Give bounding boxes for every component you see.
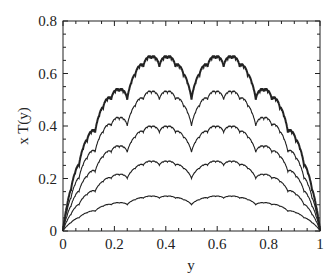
curves: [63, 56, 320, 231]
curve-x=0.2: [63, 196, 320, 231]
x-axis-label: y: [187, 257, 195, 273]
curve-x=0.8: [63, 91, 320, 231]
y-tick-label: 0: [50, 223, 58, 239]
y-tick-label: 0.8: [38, 13, 57, 29]
takagi-chart: 00.20.40.60.8100.20.40.60.8 y x T(y): [0, 0, 334, 277]
curve-x=0.4: [63, 161, 320, 231]
y-tick-label: 0.2: [38, 171, 57, 187]
y-tick-label: 0.4: [38, 118, 57, 134]
x-tick-label: 0: [59, 236, 67, 252]
x-tick-label: 0.2: [105, 236, 124, 252]
x-tick-label: 0.4: [156, 236, 175, 252]
x-tick-label: 1: [316, 236, 324, 252]
x-tick-label: 0.6: [208, 236, 227, 252]
y-tick-label: 0.6: [38, 66, 57, 82]
x-tick-label: 0.8: [259, 236, 278, 252]
y-axis-label: x T(y): [15, 107, 32, 145]
